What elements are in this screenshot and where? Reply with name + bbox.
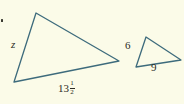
label-small-triangle-base: 9 — [151, 62, 157, 73]
small-triangle — [136, 37, 181, 67]
label-small-triangle-left-side: 6 — [125, 40, 131, 51]
corner-dot-mark — [1, 19, 3, 22]
mixed-number-whole: 13 — [58, 83, 69, 94]
similar-triangles-figure: z 13 1 2 6 9 — [0, 0, 184, 104]
large-triangle — [14, 13, 119, 82]
mixed-number: 13 1 2 — [58, 80, 75, 96]
fraction: 1 2 — [70, 80, 75, 96]
label-large-triangle-left-side: z — [11, 39, 15, 50]
triangles-canvas — [0, 0, 184, 104]
fraction-numerator: 1 — [70, 80, 75, 88]
fraction-denominator: 2 — [70, 89, 75, 97]
label-large-triangle-base: 13 1 2 — [58, 80, 75, 96]
